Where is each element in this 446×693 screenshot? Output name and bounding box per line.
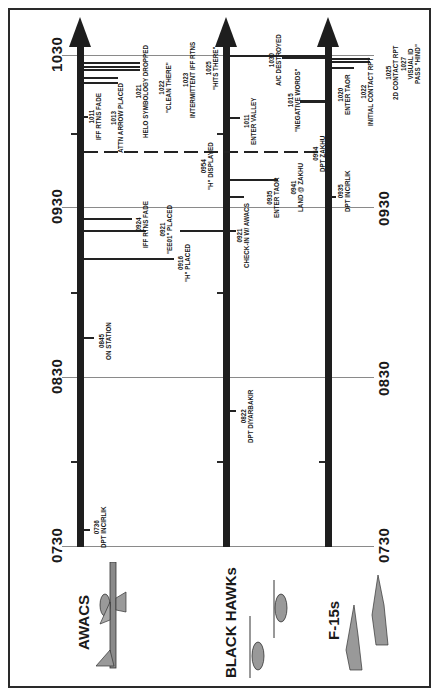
awacs-event-1021: 1021HELO SYMBOLOGY DROPPED [135,45,149,138]
minor-tick [217,133,223,135]
awacs-event-line-0916 [84,258,174,260]
f15-fighter-icon [342,575,392,675]
blackhawk-event-line-0822 [230,410,236,412]
f15-event-0935: 0935DPT INCIRLIK [337,170,351,212]
blackhawk-event-1011: 1011ENTER VALLEY [243,98,257,145]
awacs-event-0921: 0921"EE01" PLACED [159,205,173,254]
awacs-event-line-0924 [84,218,132,220]
blackhawk-event-line-1015 [300,100,325,103]
awacs-event-line-1025 [84,62,140,64]
blackhawk-event-0822: 0822DPT DIYARBAKIR [240,390,254,443]
blackhawk-event-1015: 1015"NEGATIVE WORDS" [287,68,301,132]
awacs-event-0924: 0924IFF RTNS FADE [135,201,149,248]
blackhawk-event-line-0921 [180,230,223,232]
blackhawk-arrow-head [215,17,237,47]
f15-timeline-bar [325,45,332,547]
minor-tick [217,292,223,294]
time-label-0730-right: 0730 [375,528,392,563]
awacs-event-line-1021 [84,77,118,79]
awacs-event-line-0845 [84,337,94,339]
f15-event-line-0935 [332,196,336,198]
time-label-0730-left: 0730 [48,528,65,563]
blackhawk-event-0921: 0921CHECK-IN W/ AWACS [236,203,250,268]
minor-tick [71,133,77,135]
awacs-event-0736: 0736DPT INCIRLIK [93,506,107,548]
blackhawk-event-0954-displayed: 0954"H" DISPLAYED [200,142,214,190]
time-label-0930-left: 0930 [48,189,65,224]
f15-arrow-head [317,17,339,47]
awacs-aircraft-icon [96,562,128,674]
track-label-awacs: AWACS [75,595,92,650]
blackhawk-event-0935: 0935ENTER TAOR [266,178,280,218]
awacs-arrow-head [69,17,91,47]
time-label-0930-right: 0930 [375,191,392,226]
awacs-event-1023: 1023INTERMITTENT IFF RTNS [182,42,196,118]
minor-tick [217,461,223,463]
awacs-event-0916: 0916"H" PLACED [177,244,191,282]
blackhawk-event-line-1011 [230,117,240,119]
awacs-event-1025: 1025"HITS THERE" [205,47,219,90]
time-label-0830-right: 0830 [375,361,392,396]
time-label-0830-left: 0830 [48,359,65,394]
f15-event-line-1025 [332,58,370,60]
time-label-1030-left: 1030 [48,37,65,72]
minor-tick [71,461,77,463]
blackhawk-timeline-bar [223,45,230,547]
blackhawk-event-line-0941 [230,179,278,181]
awacs-event-line-1023 [84,66,140,68]
blackhawk-destroyed-mark [282,56,325,59]
f15-event-1025: 10252D CONTACT RPT [385,46,399,100]
minor-tick [71,292,77,294]
f15-event-1022: 1022INITIAL CONTACT RPT [360,58,374,126]
awacs-event-line-0736 [84,529,90,531]
blackhawk-helicopter-icon [248,578,292,678]
awacs-timeline-bar [77,45,84,547]
f15-event-line-1020 [332,67,354,69]
track-label-f15s: F-15s [325,601,342,640]
blackhawk-event-0941: 0941LAND @ ZAKHU [290,163,304,212]
awacs-event-1013: 1013ATTN ARROW PLACED [110,83,124,153]
awacs-event-1022: 1022"CLEAN THERE" [158,62,172,113]
awacs-event-line-1022 [84,69,140,71]
blackhawk-event-0954-dpt: 0954DPT ZAKHU [312,136,326,172]
track-label-blackhawks: BLACK HAWKs [222,567,239,678]
awacs-event-0845: 0845ON STATION [98,322,112,360]
blackhawk-event-1030: 1030A/C DESTROYED [268,34,282,86]
f15-event-1027: 1027VISUAL ID PASS "HIND" [400,40,421,88]
minor-tick [319,461,325,463]
blackhawk-event-line-0935 [230,196,244,198]
f15-event-1020: 1020ENTER TAOR [337,75,351,115]
awacs-event-1011: 1011IFF RTNS FADE [88,93,102,140]
